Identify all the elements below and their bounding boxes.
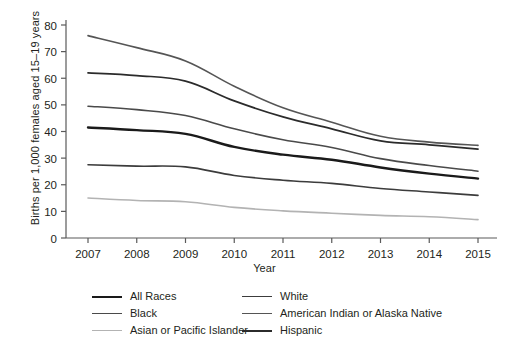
x-tick-label: 2010 [221, 248, 247, 260]
y-tick-label: 20 [44, 179, 57, 191]
legend-label-asian-or-pacific-islander: Asian or Pacific Islander [130, 322, 248, 339]
y-tick-label: 10 [44, 206, 57, 218]
y-tick-label: 60 [44, 73, 57, 85]
line-chart: 0102030405060708020072008200920102011201… [0, 0, 529, 355]
series-line-asian-or-pacific-islander [88, 198, 478, 220]
legend-item-all-races[interactable]: All Races [92, 288, 242, 305]
series-line-white [88, 165, 478, 196]
x-axis-title: Year [0, 262, 529, 274]
x-tick-label: 2007 [75, 248, 101, 260]
y-tick-label: 80 [44, 20, 57, 32]
x-tick-label: 2013 [368, 248, 394, 260]
legend-label-black: Black [130, 305, 157, 322]
y-tick-label: 40 [44, 126, 57, 138]
series-line-american-indian-or-alaska-native [88, 36, 478, 146]
y-tick-label: 50 [44, 99, 57, 111]
x-tick-label: 2014 [416, 248, 442, 260]
x-tick-label: 2009 [173, 248, 199, 260]
legend-column-left: All RacesBlackAsian or Pacific Islander [92, 288, 242, 339]
legend-item-black[interactable]: Black [92, 305, 242, 322]
legend-label-hispanic: Hispanic [280, 322, 322, 339]
y-tick-label: 70 [44, 46, 57, 58]
legend-label-all-races: All Races [130, 288, 176, 305]
legend-item-asian-or-pacific-islander[interactable]: Asian or Pacific Islander [92, 322, 242, 339]
legend-swatch-hispanic [242, 330, 272, 332]
series-line-black [88, 106, 478, 171]
y-tick-label: 30 [44, 153, 57, 165]
legend-swatch-asian-or-pacific-islander [92, 330, 122, 331]
chart-legend: All RacesBlackAsian or Pacific IslanderW… [92, 288, 512, 339]
y-axis-title: Births per 1,000 females aged 15–19 year… [29, 3, 41, 233]
y-tick-label: 0 [51, 233, 57, 245]
legend-item-white[interactable]: White [242, 288, 507, 305]
x-tick-label: 2011 [271, 248, 296, 260]
legend-label-white: White [280, 288, 308, 305]
legend-swatch-american-indian-or-alaska-native [242, 313, 272, 314]
legend-item-american-indian-or-alaska-native[interactable]: American Indian or Alaska Native [242, 305, 507, 322]
legend-swatch-all-races [92, 296, 122, 298]
x-tick-label: 2015 [465, 248, 491, 260]
series-line-all-races [88, 128, 478, 179]
x-tick-label: 2008 [124, 248, 150, 260]
legend-column-right: WhiteAmerican Indian or Alaska NativeHis… [242, 288, 507, 339]
x-tick-label: 2012 [319, 248, 345, 260]
legend-swatch-black [92, 313, 122, 314]
legend-item-hispanic[interactable]: Hispanic [242, 322, 507, 339]
legend-label-american-indian-or-alaska-native: American Indian or Alaska Native [280, 305, 442, 322]
legend-swatch-white [242, 296, 272, 297]
